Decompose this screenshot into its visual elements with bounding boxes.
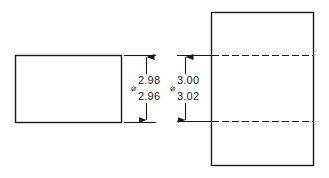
shaft-upper-limit: 2.98 <box>138 75 160 86</box>
shaft-outline <box>16 56 122 123</box>
part-outline <box>212 13 314 166</box>
hole-view <box>177 13 314 166</box>
drawing-canvas <box>0 0 329 178</box>
hole-upper-limit: 3.00 <box>177 75 199 86</box>
diameter-symbol-icon: ⌀ <box>131 84 136 93</box>
shaft-lower-limit: 2.96 <box>138 91 160 102</box>
hole-lower-limit: 3.02 <box>177 91 199 102</box>
diameter-symbol-icon: ⌀ <box>170 84 175 93</box>
